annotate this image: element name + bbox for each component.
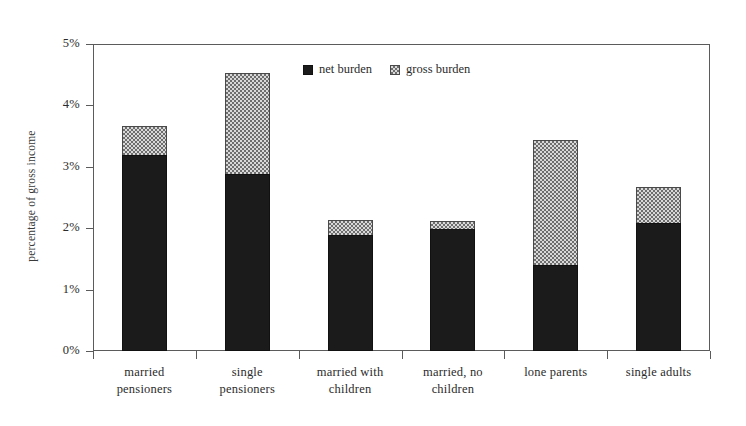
x-axis-label-line: children <box>402 381 505 398</box>
bar-group[interactable] <box>533 44 578 351</box>
y-tick-mark: 3% <box>86 167 94 168</box>
bar-segment-net-burden[interactable] <box>636 223 681 351</box>
x-axis-label-line: pensioners <box>93 381 196 398</box>
legend-label-net: net burden <box>319 62 372 77</box>
x-axis-label-line: children <box>299 381 402 398</box>
y-tick-label: 4% <box>63 97 80 112</box>
x-tick-mark <box>710 351 711 359</box>
x-axis-category-label: married, nochildren <box>402 364 505 398</box>
x-axis-label-line: single <box>196 364 299 381</box>
x-tick-mark <box>504 351 505 359</box>
bar-segment-net-burden[interactable] <box>328 235 373 351</box>
legend-swatch-net-icon <box>303 65 313 75</box>
legend-swatch-gross-icon <box>390 65 400 75</box>
x-tick-mark <box>607 351 608 359</box>
x-axis-category-label: singlepensioners <box>196 364 299 398</box>
bar-segment-net-burden[interactable] <box>225 174 270 351</box>
bar-segment-net-burden[interactable] <box>430 229 475 351</box>
y-axis-title: percentage of gross income <box>25 101 37 291</box>
y-tick-label: 0% <box>63 343 80 358</box>
x-tick-mark <box>196 351 197 359</box>
y-tick-label: 2% <box>63 220 80 235</box>
legend-label-gross: gross burden <box>406 62 470 77</box>
bar-group[interactable] <box>122 44 167 351</box>
chart-legend: net burden gross burden <box>303 62 470 77</box>
x-axis-category-label: married withchildren <box>299 364 402 398</box>
y-tick-mark: 5% <box>86 44 94 45</box>
chart-container: percentage of gross income 0%1%2%3%4%5% … <box>0 0 746 426</box>
x-axis-label-line: lone parents <box>504 364 607 381</box>
x-tick-mark <box>93 351 94 359</box>
legend-item-gross-burden: gross burden <box>390 62 470 77</box>
x-axis-label-line: single adults <box>607 364 710 381</box>
y-tick-label: 5% <box>63 36 80 51</box>
legend-item-net-burden: net burden <box>303 62 372 77</box>
bar-segment-net-burden[interactable] <box>122 155 167 351</box>
x-axis-label-line: pensioners <box>196 381 299 398</box>
x-axis-label-line: married <box>93 364 196 381</box>
y-tick-mark: 2% <box>86 228 94 229</box>
x-tick-mark <box>299 351 300 359</box>
x-axis-category-label: lone parents <box>504 364 607 381</box>
x-tick-mark <box>402 351 403 359</box>
y-tick-label: 3% <box>63 159 80 174</box>
bar-group[interactable] <box>225 44 270 351</box>
x-axis-category-label: marriedpensioners <box>93 364 196 398</box>
plot-area <box>93 44 710 351</box>
bar-group[interactable] <box>430 44 475 351</box>
x-axis-label-line: married, no <box>402 364 505 381</box>
bar-group[interactable] <box>636 44 681 351</box>
y-tick-label: 1% <box>63 282 80 297</box>
y-tick-mark: 1% <box>86 290 94 291</box>
y-tick-mark: 4% <box>86 105 94 106</box>
bar-segment-net-burden[interactable] <box>533 265 578 351</box>
bar-group[interactable] <box>328 44 373 351</box>
x-axis-category-label: single adults <box>607 364 710 381</box>
x-axis-label-line: married with <box>299 364 402 381</box>
